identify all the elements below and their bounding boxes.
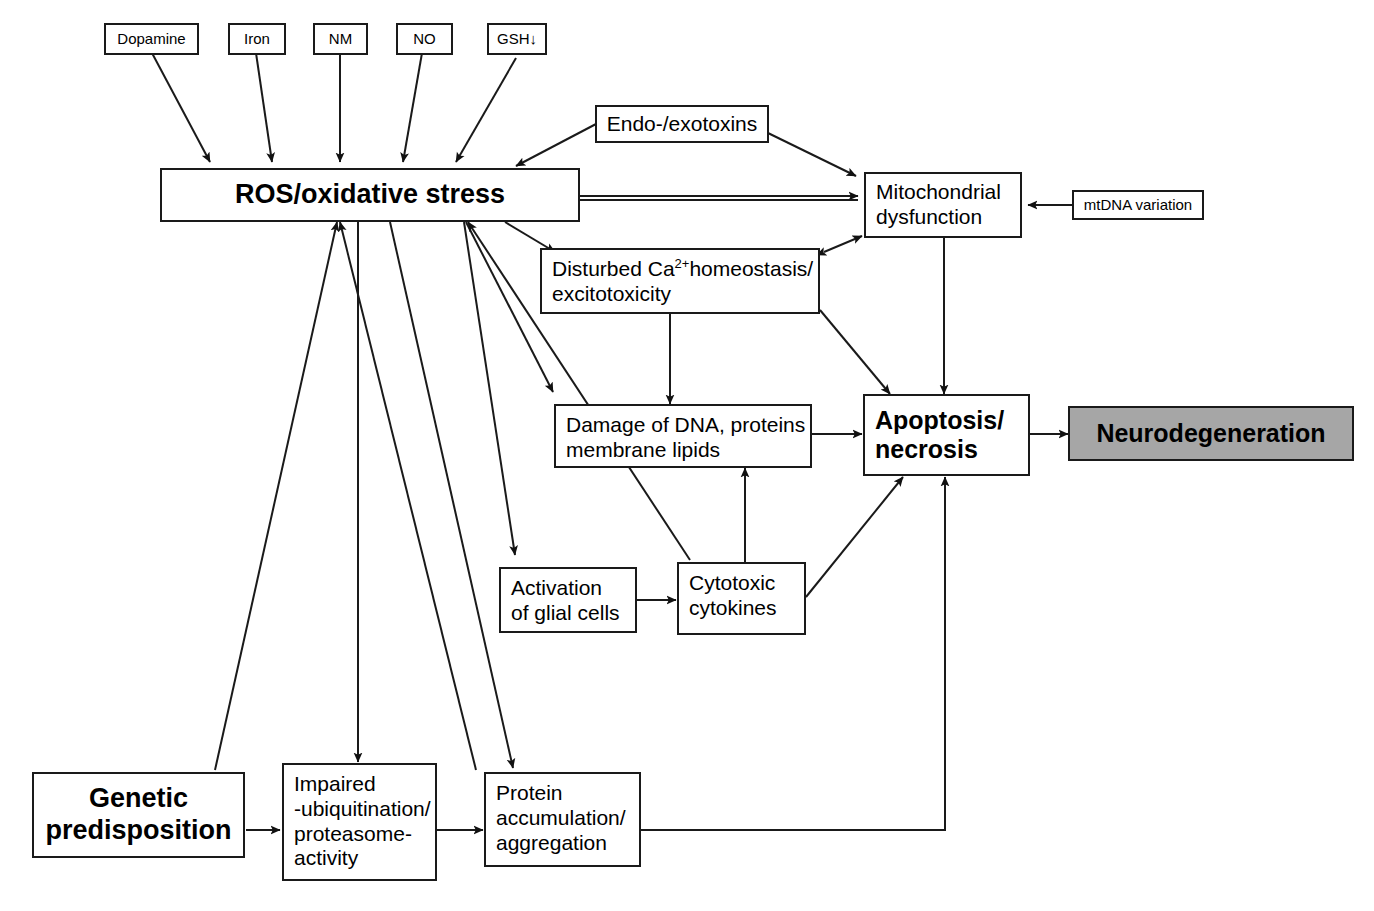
node-ros-label: ROS/oxidative stress	[235, 179, 505, 211]
node-calcium-line2: excitotoxicity	[552, 282, 671, 305]
node-genetic-label: Genetic predisposition	[45, 783, 231, 847]
node-endo-exotoxins-label: Endo-/exotoxins	[607, 112, 758, 137]
node-iron[interactable]: Iron	[228, 23, 286, 55]
node-damage-label: Damage of DNA, proteins membrane lipids	[566, 413, 805, 463]
node-activation-glial-cells[interactable]: Activation of glial cells	[499, 567, 637, 633]
node-cytotoxic-cytokines[interactable]: Cytotoxic cytokines	[677, 562, 806, 635]
node-genetic-predisposition[interactable]: Genetic predisposition	[32, 772, 245, 858]
node-apoptosis-label: Apoptosis/ necrosis	[875, 406, 1004, 465]
node-calcium-line1a: Disturbed Ca	[552, 257, 675, 280]
node-glial-label: Activation of glial cells	[511, 576, 620, 626]
node-ubiquitination-label: Impaired -ubiquitination/ proteasome- ac…	[294, 772, 431, 871]
diagram-canvas: Dopamine Iron NM NO GSH↓ Endo-/exotoxins…	[0, 0, 1374, 911]
node-apoptosis-necrosis[interactable]: Apoptosis/ necrosis	[863, 394, 1030, 476]
node-mtdna-variation[interactable]: mtDNA variation	[1072, 190, 1204, 220]
node-calcium-superscript: 2+	[675, 256, 690, 271]
node-protein-label: Protein accumulation/ aggregation	[496, 781, 626, 855]
node-mitochondrial-dysfunction[interactable]: Mitochondrial dysfunction	[864, 172, 1022, 238]
node-disturbed-calcium-homeostasis[interactable]: Disturbed Ca2+homeostasis/excitotoxicity	[540, 248, 820, 314]
node-calcium-line1b: homeostasis/	[689, 257, 813, 280]
node-protein-accumulation[interactable]: Protein accumulation/ aggregation	[484, 772, 641, 867]
node-neurodegeneration[interactable]: Neurodegeneration	[1068, 406, 1354, 461]
node-damage-dna-proteins[interactable]: Damage of DNA, proteins membrane lipids	[554, 404, 812, 468]
node-iron-label: Iron	[244, 30, 270, 48]
node-gsh[interactable]: GSH↓	[487, 23, 547, 55]
node-mitochondrial-label: Mitochondrial dysfunction	[876, 180, 1001, 230]
node-calcium-label: Disturbed Ca2+homeostasis/excitotoxicity	[552, 257, 813, 307]
node-impaired-ubiquitination[interactable]: Impaired -ubiquitination/ proteasome- ac…	[282, 763, 437, 881]
node-cytokines-label: Cytotoxic cytokines	[689, 571, 777, 621]
node-dopamine-label: Dopamine	[117, 30, 185, 48]
node-nm-label: NM	[329, 30, 352, 48]
node-no-label: NO	[413, 30, 436, 48]
node-endo-exotoxins[interactable]: Endo-/exotoxins	[595, 105, 769, 143]
node-dopamine[interactable]: Dopamine	[104, 23, 199, 55]
node-neurodegeneration-label: Neurodegeneration	[1096, 419, 1325, 449]
node-no[interactable]: NO	[396, 23, 453, 55]
node-ros-oxidative-stress[interactable]: ROS/oxidative stress	[160, 168, 580, 222]
node-mtdna-label: mtDNA variation	[1084, 196, 1192, 214]
node-gsh-label: GSH↓	[497, 30, 537, 48]
node-nm[interactable]: NM	[313, 23, 368, 55]
